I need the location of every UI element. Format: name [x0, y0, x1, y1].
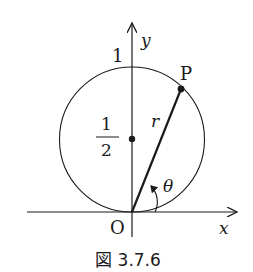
radius-segment-op: [132, 89, 181, 212]
figure-caption: 図 3.7.6: [95, 250, 161, 270]
x-axis-label: x: [219, 218, 229, 238]
y-axis-label: y: [140, 30, 151, 50]
y-tick-1-label: 1: [112, 45, 123, 66]
point-p-label: P: [180, 63, 192, 84]
radius-label: r: [151, 111, 160, 131]
half-denominator: 2: [101, 140, 112, 160]
figure-diagram: y x O 1 1 2 P r θ 図 3.7.6: [0, 0, 253, 272]
origin-label: O: [110, 217, 125, 238]
point-p: [178, 86, 185, 93]
angle-theta-label: θ: [163, 176, 173, 196]
half-numerator: 1: [101, 114, 112, 134]
center-point: [129, 136, 135, 142]
